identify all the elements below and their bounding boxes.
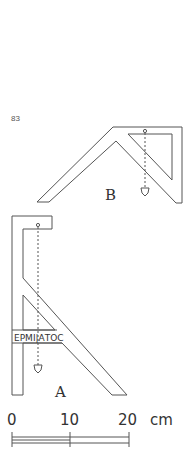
scale-tick-0: 0 bbox=[7, 411, 17, 429]
scale-tick-20: 20 bbox=[118, 411, 137, 429]
plumb-bob-icon bbox=[34, 365, 42, 373]
plumb-hole-icon bbox=[36, 223, 39, 226]
figure-b-label: B bbox=[105, 186, 116, 204]
inscription: ΕΡΜΙ|ΑΤΟϹ bbox=[14, 333, 64, 343]
figure-a bbox=[12, 216, 127, 395]
drawing-canvas: B ΕΡΜΙ|ΑΤΟϹ A 0 10 20 cm bbox=[0, 0, 193, 453]
figure-a-label: A bbox=[54, 383, 66, 401]
plumb-bob-icon bbox=[141, 188, 149, 196]
scale-tick-10: 10 bbox=[60, 411, 79, 429]
scale-bar: 0 10 20 cm bbox=[7, 411, 173, 447]
scale-unit: cm bbox=[150, 411, 173, 429]
plumb-hole-icon bbox=[143, 129, 146, 132]
